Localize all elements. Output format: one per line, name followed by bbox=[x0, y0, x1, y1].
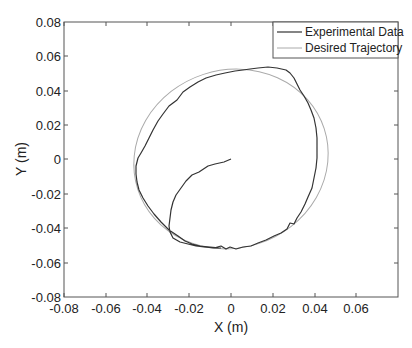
y-tick-labels: 0.08 0.06 0.04 0.02 0 -0.02 -0.04 -0.06 … bbox=[31, 15, 61, 305]
x-tick-label: -0.04 bbox=[132, 301, 162, 316]
x-tick-label: 0.06 bbox=[343, 301, 368, 316]
y-tick-label: -0.02 bbox=[31, 187, 61, 202]
y-tick-label: 0.02 bbox=[36, 118, 61, 133]
x-tick-label: 0 bbox=[227, 301, 234, 316]
chart-canvas: -0.08 -0.06 -0.04 -0.02 0 0.02 0.04 0.06… bbox=[0, 0, 412, 348]
x-tick-labels: -0.08 -0.06 -0.04 -0.02 0 0.02 0.04 0.06 bbox=[49, 301, 368, 316]
x-axis-label: X (m) bbox=[214, 319, 248, 335]
legend: Experimental Data Desired Trajectory bbox=[273, 22, 404, 58]
y-tick-label: 0.06 bbox=[36, 49, 61, 64]
y-tick-label: -0.08 bbox=[31, 290, 61, 305]
x-tick-label: -0.02 bbox=[174, 301, 204, 316]
y-tick-label: 0 bbox=[54, 152, 61, 167]
y-tick-label: -0.04 bbox=[31, 221, 61, 236]
y-tick-label: 0.04 bbox=[36, 84, 61, 99]
legend-label-experimental: Experimental Data bbox=[305, 25, 404, 39]
y-axis-label: Y (m) bbox=[13, 142, 29, 176]
x-tick-label: 0.04 bbox=[302, 301, 327, 316]
y-tick-label: -0.06 bbox=[31, 256, 61, 271]
y-tick-label: 0.08 bbox=[36, 15, 61, 30]
x-tick-label: 0.02 bbox=[260, 301, 285, 316]
legend-label-desired: Desired Trajectory bbox=[305, 41, 402, 55]
x-tick-label: -0.06 bbox=[91, 301, 121, 316]
